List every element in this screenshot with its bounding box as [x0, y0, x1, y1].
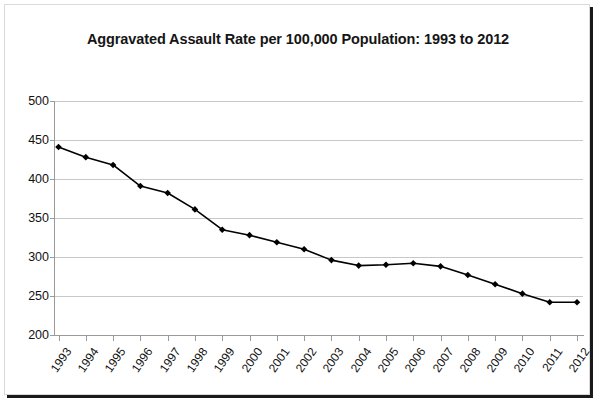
- x-axis-tick-mark: [250, 336, 251, 341]
- x-axis-tick-label: 1994: [70, 345, 101, 381]
- x-axis-tick-mark: [331, 336, 332, 341]
- x-axis-tick-mark: [222, 336, 223, 341]
- x-axis-tick-mark: [168, 336, 169, 341]
- y-axis-tick-mark: [50, 179, 55, 180]
- x-axis-tick-label: 2002: [289, 345, 320, 381]
- x-axis-tick-label: 1995: [98, 345, 129, 381]
- gridline-450: [54, 140, 583, 141]
- x-axis-tick-mark: [304, 336, 305, 341]
- chart-title: Aggravated Assault Rate per 100,000 Popu…: [5, 31, 591, 47]
- gridline-250: [54, 296, 583, 297]
- y-axis-tick-label: 250: [9, 289, 49, 303]
- x-axis-tick-mark: [386, 336, 387, 341]
- x-axis-tick-label: 1997: [152, 345, 183, 381]
- y-axis-tick-mark: [50, 296, 55, 297]
- x-axis-tick-mark: [140, 336, 141, 341]
- gridline-400: [54, 179, 583, 180]
- y-axis-tick-labels: 200250300350400450500: [5, 101, 49, 335]
- y-axis-tick-label: 350: [9, 211, 49, 225]
- x-axis-tick-label: 2010: [507, 345, 538, 381]
- x-axis-tick-label: 2006: [398, 345, 429, 381]
- x-axis-tick-mark: [59, 336, 60, 341]
- x-axis-tick-label: 2007: [425, 345, 456, 381]
- gridline-350: [54, 218, 583, 219]
- x-axis-line: [54, 335, 584, 336]
- x-axis-tick-label: 2005: [370, 345, 401, 381]
- x-axis-tick-mark: [113, 336, 114, 341]
- x-axis-tick-label: 2001: [261, 345, 292, 381]
- y-axis-tick-label: 300: [9, 250, 49, 264]
- x-axis-tick-mark: [413, 336, 414, 341]
- plot-area: [54, 101, 583, 335]
- x-axis-tick-label: 2009: [480, 345, 511, 381]
- gridline-300: [54, 257, 583, 258]
- chart-frame: Aggravated Assault Rate per 100,000 Popu…: [4, 4, 590, 395]
- y-axis-tick-label: 400: [9, 172, 49, 186]
- x-axis-tick-mark: [359, 336, 360, 341]
- x-axis-tick-label: 2011: [534, 345, 565, 381]
- y-axis-tick-mark: [50, 101, 55, 102]
- x-axis-tick-label: 2012: [561, 345, 592, 381]
- y-axis-tick-label: 500: [9, 94, 49, 108]
- y-axis-tick-label: 200: [9, 328, 49, 342]
- x-axis-tick-label: 1996: [125, 345, 156, 381]
- gridline-500: [54, 101, 583, 102]
- x-axis-tick-label: 2000: [234, 345, 265, 381]
- x-axis-tick-mark: [441, 336, 442, 341]
- x-axis-tick-label: 1993: [43, 345, 74, 381]
- x-axis-tick-label: 1999: [207, 345, 238, 381]
- x-axis-tick-label: 2003: [316, 345, 347, 381]
- y-axis-tick-label: 450: [9, 133, 49, 147]
- x-axis-tick-mark: [277, 336, 278, 341]
- x-axis-tick-label: 2008: [452, 345, 483, 381]
- x-axis-tick-mark: [577, 336, 578, 341]
- x-axis-tick-mark: [495, 336, 496, 341]
- y-axis-tick-mark: [50, 140, 55, 141]
- x-axis-tick-mark: [86, 336, 87, 341]
- x-axis-tick-mark: [522, 336, 523, 341]
- x-axis-tick-mark: [550, 336, 551, 341]
- y-axis-tick-mark: [50, 218, 55, 219]
- x-axis-tick-mark: [468, 336, 469, 341]
- x-axis-tick-label: 2004: [343, 345, 374, 381]
- y-axis-tick-mark: [50, 257, 55, 258]
- x-axis-tick-label: 1998: [179, 345, 210, 381]
- x-axis-tick-mark: [195, 336, 196, 341]
